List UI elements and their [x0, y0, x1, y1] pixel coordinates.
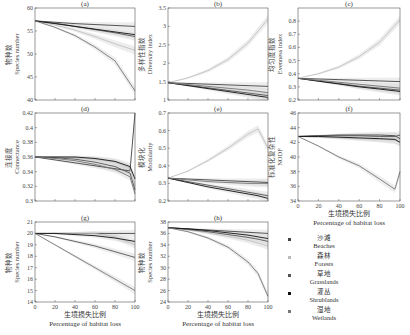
x-tick: 0	[297, 203, 300, 209]
y-tick: 0.3	[289, 84, 297, 90]
legend-item-grasslands: 草地Grasslands	[288, 270, 358, 286]
y-tick: 60	[27, 5, 33, 11]
y-tick: 42	[290, 139, 296, 145]
y-label-cn: 物种数	[4, 252, 13, 273]
legend-label-cn: 灌丛	[317, 288, 331, 296]
y-tick: 0.36	[23, 154, 34, 160]
y-tick: 0.3	[159, 180, 167, 186]
y-label: Evenness index	[276, 33, 283, 74]
forests-marker-icon	[288, 256, 291, 259]
y-tick: 2.5	[159, 42, 167, 48]
legend-item-wetlands: 湿地Wetlands	[288, 306, 358, 322]
y-tick: 24	[160, 299, 166, 305]
y-label: Modularity	[146, 142, 153, 172]
y-tick: 1	[163, 97, 166, 103]
y-tick: 0.4	[159, 163, 167, 169]
legend-label-cn: 森林	[317, 252, 331, 260]
y-label-cn: 物种数	[137, 252, 146, 273]
x-tick: 0	[34, 304, 37, 310]
y-tick: 19	[27, 242, 33, 248]
x-tick: 0	[167, 304, 170, 310]
y-label: Species number	[13, 33, 20, 75]
panel-title: (g)	[81, 214, 90, 222]
x-tick: 60	[92, 304, 98, 310]
legend-item-shrublands: 灌丛Shrublands	[288, 288, 358, 304]
legend-label-en: Shrublands	[309, 296, 338, 304]
y-tick: 0.6	[289, 44, 297, 50]
y-label-cn: 连接度	[4, 147, 13, 168]
y-tick: 15	[27, 288, 33, 294]
y-tick: 34	[160, 242, 166, 248]
legend-item-forests: 森林Forests	[288, 252, 358, 268]
y-tick: 21	[27, 219, 33, 225]
y-tick: 45	[27, 74, 33, 80]
y-tick: 38	[160, 219, 166, 225]
y-label-cn: 多样性指数	[137, 37, 146, 72]
plot-frame	[298, 113, 400, 201]
legend-label-cn: 湿地	[317, 306, 331, 314]
x-tick: 20	[52, 304, 58, 310]
y-tick: 3	[163, 23, 166, 29]
series-forests	[298, 20, 400, 78]
series-forests	[168, 19, 268, 83]
x-label-cn: 生境损失比例	[197, 310, 239, 319]
y-tick: 2	[163, 60, 166, 66]
y-label: Species number	[13, 241, 20, 283]
x-label-cn: 生境损失比例	[328, 209, 370, 218]
y-label-cn: 物种数	[4, 44, 13, 65]
y-label-cn: 均匀度指数	[267, 37, 276, 72]
y-tick: 0.7	[159, 110, 167, 116]
x-tick: 20	[315, 203, 321, 209]
panel-d: (d)0.420.40.380.360.340.320.3连接度Connecta…	[4, 105, 135, 204]
x-tick: 40	[205, 304, 211, 310]
x-label: Percentage of habitat loss	[49, 320, 121, 328]
y-tick: 0.32	[23, 183, 34, 189]
panel-title: (d)	[81, 105, 90, 113]
y-tick: 40	[290, 154, 296, 160]
panel-f: (f)46444240383634020406080100生境损失比例Perce…	[267, 105, 405, 227]
x-tick: 60	[356, 203, 362, 209]
y-label: NODF	[276, 148, 283, 166]
y-tick: 28	[160, 276, 166, 282]
panel-title: (a)	[81, 0, 89, 8]
y-tick: 26	[160, 288, 166, 294]
y-tick: 14	[27, 299, 33, 305]
legend-label-en: Forests	[315, 260, 334, 268]
y-tick: 0.4	[26, 125, 34, 131]
y-tick: 0.38	[23, 139, 34, 145]
beaches-marker-icon	[288, 238, 291, 241]
y-tick: 18	[27, 253, 33, 259]
legend-label-en: Grasslands	[310, 278, 339, 286]
y-tick: 3.5	[159, 5, 167, 11]
y-tick: 32	[160, 253, 166, 259]
y-tick: 46	[290, 110, 296, 116]
y-tick: 0.8	[289, 18, 297, 24]
y-tick: 0.3	[26, 198, 34, 204]
y-tick: 0.34	[23, 169, 34, 175]
grasslands-marker-icon	[288, 274, 291, 277]
x-label-cn: 生境损失比例	[64, 310, 106, 319]
y-tick: 0.6	[159, 128, 167, 134]
y-tick: 40	[27, 97, 33, 103]
y-tick: 36	[290, 183, 296, 189]
y-tick: 0.2	[159, 198, 167, 204]
legend-label-en: Wetlands	[312, 314, 336, 322]
legend: 沙滩Beaches 森林Forests 草地Grasslands 灌丛Shrub…	[288, 234, 358, 324]
x-tick: 100	[264, 304, 273, 310]
y-label: Species number	[146, 241, 153, 283]
x-tick: 80	[377, 203, 383, 209]
y-tick: 30	[160, 265, 166, 271]
y-tick: 38	[290, 169, 296, 175]
x-tick: 100	[396, 203, 405, 209]
panel-c: (c)0.80.70.60.50.40.30.2均匀度指数Evenness in…	[267, 0, 400, 103]
y-tick: 36	[160, 230, 166, 236]
legend-item-beaches: 沙滩Beaches	[288, 234, 358, 250]
panel-a: (a)6055504540物种数Species number	[4, 0, 135, 103]
legend-label-en: Beaches	[313, 242, 335, 250]
x-tick: 40	[72, 304, 78, 310]
panel-title: (c)	[345, 0, 353, 8]
panel-title: (h)	[214, 214, 223, 222]
x-tick: 80	[245, 304, 251, 310]
y-tick: 0.4	[289, 71, 297, 77]
x-tick: 100	[131, 304, 140, 310]
